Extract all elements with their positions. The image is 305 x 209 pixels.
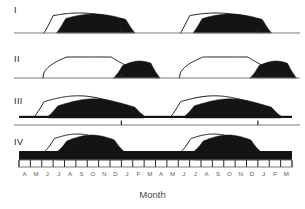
month-label: A xyxy=(65,171,76,177)
month-label: J xyxy=(190,171,201,177)
filled-curve xyxy=(113,61,160,78)
filled-curve xyxy=(250,61,297,78)
month-axis-labels: AMJJASONDJFMAMJJASONDJFM xyxy=(0,171,305,185)
month-label: N xyxy=(99,171,110,177)
filled-curve xyxy=(57,14,135,33)
month-label: A xyxy=(19,171,30,177)
seasonal-abundance-figure: I II III IV AMJJASONDJFMAMJJASONDJFM Mon… xyxy=(0,0,305,209)
month-label: D xyxy=(247,171,258,177)
month-label: M xyxy=(144,171,155,177)
month-label: F xyxy=(269,171,280,177)
month-label: N xyxy=(235,171,246,177)
filled-curve xyxy=(194,135,260,160)
month-label: J xyxy=(53,171,64,177)
month-label: A xyxy=(156,171,167,177)
panel-II xyxy=(14,57,300,78)
month-label: M xyxy=(30,171,41,177)
month-label: J xyxy=(42,171,53,177)
filled-curve xyxy=(185,99,281,118)
month-label: A xyxy=(201,171,212,177)
filled-curve xyxy=(49,99,145,118)
x-axis-title: Month xyxy=(0,189,305,200)
filled-curve xyxy=(193,14,271,33)
month-label: M xyxy=(281,171,292,177)
month-label: S xyxy=(76,171,87,177)
filled-curve xyxy=(58,135,124,160)
month-label: J xyxy=(258,171,269,177)
month-label: J xyxy=(121,171,132,177)
panel-III xyxy=(14,96,300,125)
panel-I xyxy=(14,13,300,33)
month-label: F xyxy=(133,171,144,177)
month-label: O xyxy=(87,171,98,177)
month-label: J xyxy=(178,171,189,177)
panel-IV xyxy=(19,134,292,167)
month-label: O xyxy=(224,171,235,177)
month-label: M xyxy=(167,171,178,177)
month-label: S xyxy=(212,171,223,177)
month-label: D xyxy=(110,171,121,177)
